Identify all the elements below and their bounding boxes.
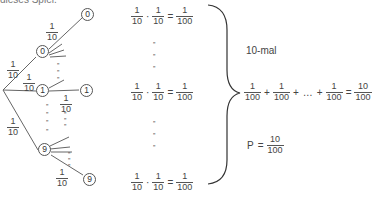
- edge-prob-0-0: 1 10: [46, 22, 58, 42]
- tree-node-level1-9: 9: [38, 143, 51, 156]
- probability-expression: P = 10100: [246, 135, 284, 155]
- plus-sign: +: [316, 87, 324, 98]
- edge-prob-9-9: 1 10: [56, 168, 68, 188]
- numerator: 1: [49, 22, 56, 31]
- ditto-mark: ”: [68, 163, 70, 170]
- ditto-mark: ”: [153, 132, 155, 139]
- probability-label: P: [246, 140, 255, 151]
- times-sign: ·: [145, 11, 150, 22]
- tree-node-level1-1: 1: [36, 84, 49, 97]
- equals-sign: =: [345, 87, 353, 98]
- ditto-mark: ”: [153, 53, 155, 60]
- ditto-mark: ”: [153, 120, 155, 127]
- ellipsis: …: [302, 87, 314, 98]
- ditto-mark: ”: [153, 144, 155, 151]
- edge-prob-root-1: 1 10: [23, 73, 35, 93]
- product-row-1: 110 · 110 = 1100: [131, 6, 193, 26]
- tree-node-level2-0: 0: [81, 8, 94, 21]
- equals-sign: =: [166, 87, 174, 98]
- times-label: 10-mal: [246, 45, 277, 56]
- ditto-mark: ”: [46, 103, 48, 110]
- ditto-mark: ”: [46, 119, 48, 126]
- edge-prob-root-9: 1 10: [7, 117, 19, 137]
- edge-prob-root-0: 1 10: [7, 60, 19, 80]
- equals-sign: =: [166, 177, 174, 188]
- ditto-mark: ”: [57, 69, 59, 76]
- ditto-mark: ”: [153, 41, 155, 48]
- ditto-mark: ”: [153, 65, 155, 72]
- denominator: 10: [46, 33, 58, 42]
- curly-brace: [205, 0, 241, 197]
- times-sign: ·: [145, 177, 150, 188]
- product-row-2: 110 · 110 = 1100: [131, 82, 193, 102]
- ditto-mark: ”: [64, 123, 66, 130]
- ditto-mark: ”: [57, 76, 59, 83]
- equals-sign: =: [257, 140, 265, 151]
- equals-sign: =: [166, 11, 174, 22]
- product-row-3: 110 · 110 = 1100: [131, 172, 193, 192]
- tree-node-level2-9: 9: [83, 173, 96, 186]
- ditto-mark: ”: [46, 128, 48, 135]
- plus-sign: +: [292, 87, 300, 98]
- plus-sign: +: [263, 87, 271, 98]
- tree-node-level1-0: 0: [36, 45, 49, 58]
- ditto-mark: ”: [46, 111, 48, 118]
- ditto-mark: ”: [57, 62, 59, 69]
- times-sign: ·: [145, 87, 150, 98]
- sum-expression: 1100 + 1100 + … + 1100 = 10100: [244, 82, 372, 102]
- tree-node-level2-1: 1: [80, 84, 93, 97]
